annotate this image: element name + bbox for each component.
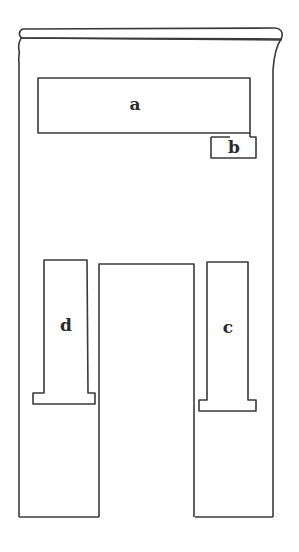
left-wall <box>19 38 21 517</box>
label-d: d <box>60 317 72 334</box>
right-wall <box>273 39 281 517</box>
label-c: c <box>223 319 233 336</box>
pillar-c <box>199 262 256 411</box>
label-a: a <box>129 96 140 113</box>
label-b: b <box>228 139 240 156</box>
panel-a <box>38 78 250 133</box>
cap-line <box>21 38 281 39</box>
doorway-opening <box>99 264 194 517</box>
diagram-drawing <box>0 0 299 552</box>
